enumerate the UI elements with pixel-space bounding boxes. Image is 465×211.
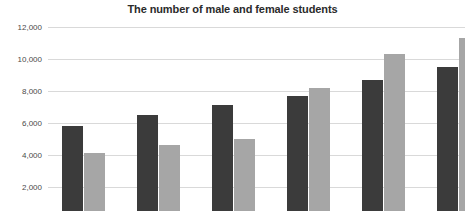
bar-male-6 <box>437 67 458 211</box>
chart-title: The number of male and female students <box>0 3 465 15</box>
bar-male-5 <box>362 80 383 211</box>
bar-female-6 <box>459 38 465 211</box>
bar-male-1 <box>62 126 83 211</box>
bar-male-2 <box>137 115 158 211</box>
y-axis-tick-label: 6,000 <box>0 119 42 128</box>
bar-male-3 <box>212 105 233 211</box>
plot-area: 12,00010,0008,0006,0004,0002,000 <box>48 25 465 211</box>
bar-male-4 <box>287 96 308 211</box>
y-axis-tick-label: 10,000 <box>0 55 42 64</box>
bar-group <box>137 25 181 211</box>
y-axis-tick-label: 12,000 <box>0 23 42 32</box>
y-axis-tick-label: 2,000 <box>0 183 42 192</box>
bar-female-1 <box>84 153 105 211</box>
bar-chart: The number of male and female students 1… <box>0 0 465 211</box>
bar-group <box>62 25 106 211</box>
bar-female-2 <box>159 145 180 211</box>
y-axis-tick-label: 8,000 <box>0 87 42 96</box>
bar-female-4 <box>309 88 330 211</box>
bar-group <box>362 25 406 211</box>
bar-group <box>212 25 256 211</box>
bar-female-3 <box>234 139 255 211</box>
bar-group <box>287 25 331 211</box>
bar-female-5 <box>384 54 405 211</box>
bar-group <box>437 25 465 211</box>
y-axis-tick-label: 4,000 <box>0 151 42 160</box>
